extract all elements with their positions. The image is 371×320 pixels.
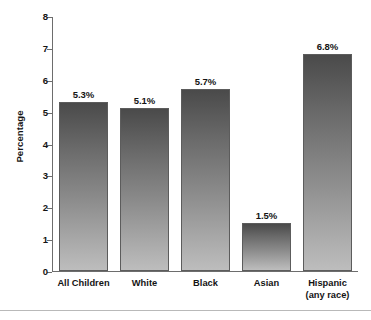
x-axis-category-labels: All ChildrenWhiteBlackAsianHispanic(any …	[53, 277, 358, 313]
x-category-label: Hispanic	[308, 278, 347, 288]
bar-chart: Percentage 876543210 5.3%5.1%5.7%1.5%6.8…	[0, 0, 371, 320]
x-category-sublabel: (any race)	[297, 289, 358, 301]
x-category-label: Asian	[254, 278, 279, 288]
x-category-label: All Children	[57, 278, 109, 288]
bar-value-label: 6.8%	[303, 42, 352, 52]
y-tick-label: 3	[43, 172, 48, 182]
bars-group: 5.3%5.1%5.7%1.5%6.8%	[53, 17, 358, 271]
bar-slot: 6.8%	[303, 17, 352, 271]
x-category-all-children: All Children	[53, 277, 114, 289]
x-category-label: Black	[193, 278, 218, 288]
bar-asian[interactable]	[242, 223, 291, 271]
bar-value-label: 5.7%	[181, 77, 230, 87]
y-axis-title: Percentage	[8, 0, 30, 272]
y-tick-label: 1	[43, 235, 48, 245]
bar-slot: 5.7%	[181, 17, 230, 271]
y-tick-label: 7	[43, 44, 48, 54]
bar-black[interactable]	[181, 89, 230, 271]
x-category-black: Black	[175, 277, 236, 289]
bar-hispanic[interactable]	[303, 54, 352, 271]
bar-value-label: 1.5%	[242, 211, 291, 221]
x-category-white: White	[114, 277, 175, 289]
bar-slot: 1.5%	[242, 17, 291, 271]
x-category-asian: Asian	[236, 277, 297, 289]
y-tick-label: 8	[43, 12, 48, 22]
y-tick-label: 4	[43, 140, 48, 150]
y-axis-title-text: Percentage	[14, 110, 25, 162]
x-category-label: White	[132, 278, 157, 288]
plot-area: 876543210 5.3%5.1%5.7%1.5%6.8%	[52, 17, 358, 272]
bottom-divider	[0, 310, 371, 311]
x-axis-line	[52, 271, 358, 272]
x-category-hispanic: Hispanic(any race)	[297, 277, 358, 301]
bar-slot: 5.1%	[120, 17, 169, 271]
y-tick-label: 6	[43, 76, 48, 86]
bar-value-label: 5.1%	[120, 96, 169, 106]
y-tick-label: 2	[43, 204, 48, 214]
y-tick-label: 5	[43, 108, 48, 118]
y-tick-label: 0	[43, 267, 48, 277]
bar-white[interactable]	[120, 108, 169, 271]
bar-slot: 5.3%	[59, 17, 108, 271]
bar-all-children[interactable]	[59, 102, 108, 271]
bar-value-label: 5.3%	[59, 90, 108, 100]
